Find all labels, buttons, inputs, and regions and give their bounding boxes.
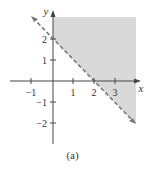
y-tick-label: 1 [42,55,47,66]
x-tick-label: −1 [26,87,37,98]
x-axis-label: x [138,82,144,94]
y-axis-label: y [43,5,49,17]
x-tick-label: 2 [92,87,97,98]
x-tick-label: 1 [71,87,76,98]
y-tick-label: −1 [36,97,47,108]
y-axis-arrow-icon [51,10,56,17]
boundary-arrow-top-icon [31,16,38,22]
y-tick-label: −2 [36,118,47,129]
y-tick-label: 2 [42,34,47,45]
shaded-region [53,17,136,124]
figure-caption: (a) [0,149,145,161]
inequality-graph: −1 1 2 3 2 1 −1 −2 x y [0,0,145,169]
x-tick-label: 3 [113,87,118,98]
